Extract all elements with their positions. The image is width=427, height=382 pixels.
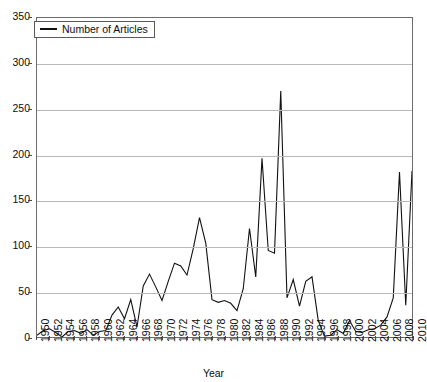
x-tick-mark-1996 xyxy=(325,336,326,340)
x-tick-mark-1992 xyxy=(300,336,301,340)
x-tick-mark-1972 xyxy=(174,336,175,340)
x-tick-label-1970: 1970 xyxy=(166,319,177,342)
x-tick-mark-2000 xyxy=(350,336,351,340)
x-tick-label-1960: 1960 xyxy=(103,319,114,342)
x-tick-mark-1966 xyxy=(137,336,138,340)
x-tick-mark-1954 xyxy=(61,336,62,340)
gridline-y-50 xyxy=(37,293,412,294)
x-tick-mark-2006 xyxy=(388,336,389,340)
gridline-y-150 xyxy=(37,201,412,202)
x-tick-mark-2010 xyxy=(413,336,414,340)
x-tick-mark-1988 xyxy=(275,336,276,340)
x-axis-title: Year xyxy=(0,367,427,379)
y-tick-mark-100 xyxy=(28,246,32,247)
x-tick-mark-1982 xyxy=(237,336,238,340)
x-tick-mark-1976 xyxy=(199,336,200,340)
x-tick-mark-1984 xyxy=(250,336,251,340)
x-tick-mark-2004 xyxy=(375,336,376,340)
x-tick-label-2002: 2002 xyxy=(367,319,378,342)
x-tick-mark-1990 xyxy=(287,336,288,340)
y-tick-mark-150 xyxy=(28,200,32,201)
y-tick-mark-200 xyxy=(28,155,32,156)
y-tick-mark-50 xyxy=(28,292,32,293)
y-tick-mark-300 xyxy=(28,63,32,64)
series-line-number-of-articles xyxy=(37,18,412,337)
legend-line-swatch xyxy=(40,28,57,30)
x-tick-mark-1978 xyxy=(212,336,213,340)
x-tick-label-1992: 1992 xyxy=(304,319,315,342)
chart-figure: 050100150200250300350 Number of Articles… xyxy=(0,0,427,382)
x-tick-label-1974: 1974 xyxy=(191,319,202,342)
plot-area xyxy=(36,17,413,338)
gridline-y-300 xyxy=(37,64,412,65)
x-tick-mark-1970 xyxy=(162,336,163,340)
gridline-y-200 xyxy=(37,156,412,157)
x-tick-mark-1968 xyxy=(149,336,150,340)
x-tick-mark-1950 xyxy=(36,336,37,340)
x-tick-mark-1974 xyxy=(187,336,188,340)
y-axis: 050100150200250300350 xyxy=(0,0,30,382)
x-tick-mark-1964 xyxy=(124,336,125,340)
x-tick-label-1988: 1988 xyxy=(279,319,290,342)
x-tick-mark-1986 xyxy=(262,336,263,340)
x-tick-label-2010: 2010 xyxy=(417,319,427,342)
x-tick-mark-1998 xyxy=(338,336,339,340)
gridline-y-100 xyxy=(37,247,412,248)
x-tick-mark-1980 xyxy=(225,336,226,340)
x-tick-mark-1960 xyxy=(99,336,100,340)
legend-label: Number of Articles xyxy=(62,24,148,35)
x-tick-label-1956: 1956 xyxy=(78,319,89,342)
y-tick-mark-0 xyxy=(28,338,32,339)
x-tick-mark-1956 xyxy=(74,336,75,340)
chart-legend: Number of Articles xyxy=(34,21,155,38)
gridline-y-250 xyxy=(37,110,412,111)
x-tick-mark-1952 xyxy=(49,336,50,340)
x-tick-mark-1994 xyxy=(312,336,313,340)
y-tick-mark-250 xyxy=(28,109,32,110)
x-tick-mark-2008 xyxy=(400,336,401,340)
x-tick-label-2006: 2006 xyxy=(392,319,403,342)
x-tick-mark-1958 xyxy=(86,336,87,340)
y-tick-mark-350 xyxy=(28,17,32,18)
x-tick-mark-2002 xyxy=(363,336,364,340)
x-tick-mark-1962 xyxy=(111,336,112,340)
